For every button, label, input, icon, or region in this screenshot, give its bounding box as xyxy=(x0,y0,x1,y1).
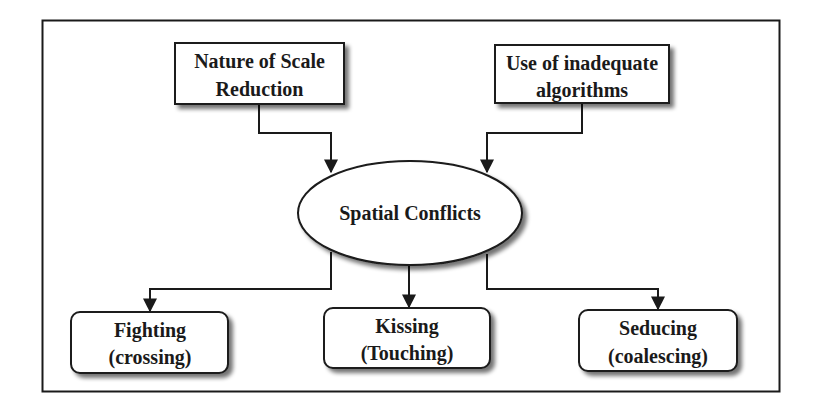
type-label-line1: Kissing xyxy=(375,315,438,338)
arrow-conflicts-to-fighting xyxy=(150,252,331,311)
center-node-spatial-conflicts: Spatial Conflicts xyxy=(298,161,522,265)
arrow-scale-to-conflicts xyxy=(259,104,331,172)
cause-label-line1: Use of inadequate xyxy=(506,52,658,75)
cause-label-line2: Reduction xyxy=(216,78,304,100)
type-label-line2: (coalescing) xyxy=(608,345,708,368)
type-label-line1: Fighting xyxy=(114,319,186,342)
type-box-kissing: Kissing (Touching) xyxy=(324,308,490,368)
spatial-conflicts-diagram: Nature of Scale Reduction Use of inadequ… xyxy=(0,0,818,413)
cause-label-line2: algorithms xyxy=(536,79,628,102)
type-box-fighting: Fighting (crossing) xyxy=(71,312,228,373)
cause-label-line1: Nature of Scale xyxy=(194,50,325,72)
type-label-line1: Seducing xyxy=(619,317,697,340)
arrow-algorithms-to-conflicts xyxy=(487,104,582,172)
type-label-line2: (crossing) xyxy=(109,346,192,369)
type-box-seducing: Seducing (coalescing) xyxy=(579,310,737,371)
arrow-conflicts-to-seducing xyxy=(487,254,658,309)
type-label-line2: (Touching) xyxy=(361,342,454,365)
cause-box-scale-reduction: Nature of Scale Reduction xyxy=(175,43,344,104)
center-label: Spatial Conflicts xyxy=(339,202,481,225)
cause-box-inadequate-algorithms: Use of inadequate algorithms xyxy=(495,45,669,103)
